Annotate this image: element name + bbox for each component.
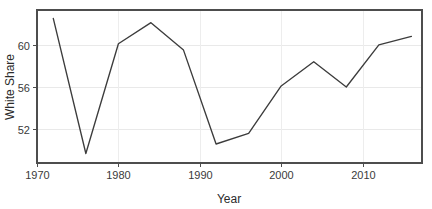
x-tick-label-1980: 1980	[106, 169, 130, 181]
y-tick-label-60: 60	[18, 40, 30, 52]
y-tick-label-56: 56	[18, 82, 30, 94]
y-tick-label-52: 52	[18, 124, 30, 136]
y-axis-title: White Share	[3, 54, 17, 120]
x-tick-label-2000: 2000	[269, 169, 293, 181]
x-tick-label-1970: 1970	[25, 169, 49, 181]
x-axis-title: Year	[217, 192, 241, 206]
line-chart-canvas: 525660 19701980199020002010 Year White S…	[0, 0, 432, 209]
chart-figure: 525660 19701980199020002010 Year White S…	[0, 0, 432, 209]
x-tick-label-1990: 1990	[188, 169, 212, 181]
x-axis: 19701980199020002010	[25, 163, 375, 181]
y-axis: 525660	[18, 40, 37, 136]
x-tick-label-2010: 2010	[351, 169, 375, 181]
